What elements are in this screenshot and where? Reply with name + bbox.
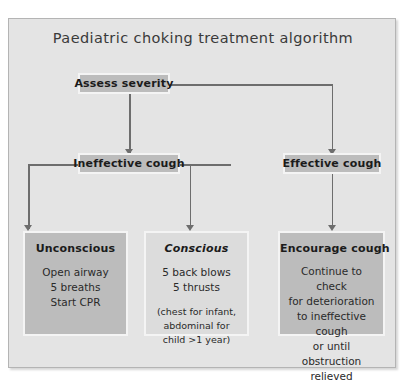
connector-ineffective-right-vertical — [190, 164, 192, 229]
node-assess-severity-label: Assess severity — [74, 77, 173, 90]
diagram-frame: Paediatric choking treatment algorithm A… — [8, 18, 396, 368]
node-unconscious-line: Open airway — [29, 265, 122, 280]
node-effective-cough[interactable]: Effective cough — [283, 153, 381, 174]
node-encourage-line: Continue to check — [284, 264, 379, 294]
node-encourage-line: to ineffective cough — [284, 309, 379, 339]
node-conscious-note-line: child >1 year) — [150, 333, 243, 347]
node-conscious-body: 5 back blows 5 thrusts (chest for infant… — [146, 265, 247, 347]
node-conscious-header: Conscious — [146, 242, 247, 255]
node-conscious-note-line: abdominal for — [150, 319, 243, 333]
node-encourage-cough-body: Continue to check for deterioration to i… — [280, 264, 383, 384]
node-encourage-line: for deterioration — [284, 294, 379, 309]
connector-ineffective-right-horizontal — [180, 164, 231, 166]
connector-effective-to-encourage — [332, 174, 334, 229]
node-encourage-line: or until obstruction — [284, 339, 379, 369]
node-unconscious-line: Start CPR — [29, 295, 122, 310]
connector-assess-to-ineffective — [129, 94, 131, 153]
flowchart-canvas: Paediatric choking treatment algorithm A… — [0, 0, 403, 386]
node-unconscious-line: 5 breaths — [29, 280, 122, 295]
node-conscious-line: 5 back blows — [150, 265, 243, 280]
node-unconscious-header: Unconscious — [25, 242, 126, 255]
node-unconscious-body: Open airway 5 breaths Start CPR — [25, 265, 126, 310]
node-encourage-cough-header: Encourage cough — [280, 242, 383, 255]
node-effective-cough-label: Effective cough — [282, 157, 381, 170]
connector-assess-to-effective-horizontal — [169, 84, 333, 86]
node-conscious-note-line: (chest for infant, — [150, 305, 243, 319]
node-ineffective-cough[interactable]: Ineffective cough — [78, 153, 180, 174]
node-unconscious[interactable]: Unconscious Open airway 5 breaths Start … — [23, 231, 128, 336]
diagram-title: Paediatric choking treatment algorithm — [9, 30, 397, 46]
node-assess-severity[interactable]: Assess severity — [78, 73, 170, 94]
node-conscious-note: (chest for infant, abdominal for child >… — [150, 305, 243, 347]
node-encourage-line: relieved — [284, 369, 379, 384]
connector-ineffective-left-vertical — [28, 164, 30, 229]
node-conscious[interactable]: Conscious 5 back blows 5 thrusts (chest … — [144, 231, 249, 336]
node-conscious-line: 5 thrusts — [150, 280, 243, 295]
connector-assess-to-effective-vertical — [332, 84, 334, 153]
node-encourage-cough[interactable]: Encourage cough Continue to check for de… — [278, 231, 385, 336]
node-ineffective-cough-label: Ineffective cough — [73, 157, 184, 170]
connector-ineffective-left-horizontal — [28, 164, 78, 166]
